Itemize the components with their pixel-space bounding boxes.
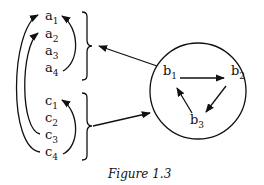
arrow-b2-to-b3	[206, 86, 226, 112]
element-a3: a3	[45, 43, 59, 61]
element-b2: b2	[231, 63, 245, 81]
brace-a	[82, 12, 92, 80]
element-c4: c4	[45, 144, 58, 162]
arrow-a4-to-a1	[62, 16, 76, 71]
element-a1: a1	[45, 8, 59, 26]
element-b3: b3	[190, 112, 204, 130]
arrow-c4-to-a1	[17, 15, 41, 152]
element-c3: c3	[45, 127, 58, 145]
element-c2: c2	[45, 110, 58, 128]
arrow-c3-to-a2	[25, 33, 40, 134]
element-a4: a4	[45, 60, 59, 78]
brace-c	[82, 93, 92, 160]
group-a: a1 a2 a3 a4	[45, 8, 59, 78]
element-a2: a2	[45, 26, 59, 44]
arrow-b3-to-b1	[177, 88, 192, 113]
arrow-c4-to-c1	[62, 100, 76, 154]
arrow-brace-c-to-circle	[93, 113, 150, 126]
element-c1: c1	[45, 93, 58, 111]
figure-caption: Figure 1.3	[107, 167, 172, 181]
group-c: c1 c2 c3 c4	[45, 93, 58, 162]
figure-1-3: a1 a2 a3 a4 c1 c2 c3 c4 b1 b2 b3 Figure …	[0, 0, 264, 185]
arrow-circle-to-brace-a	[99, 46, 157, 66]
element-b1: b1	[163, 63, 177, 81]
group-b: b1 b2 b3	[163, 63, 245, 130]
